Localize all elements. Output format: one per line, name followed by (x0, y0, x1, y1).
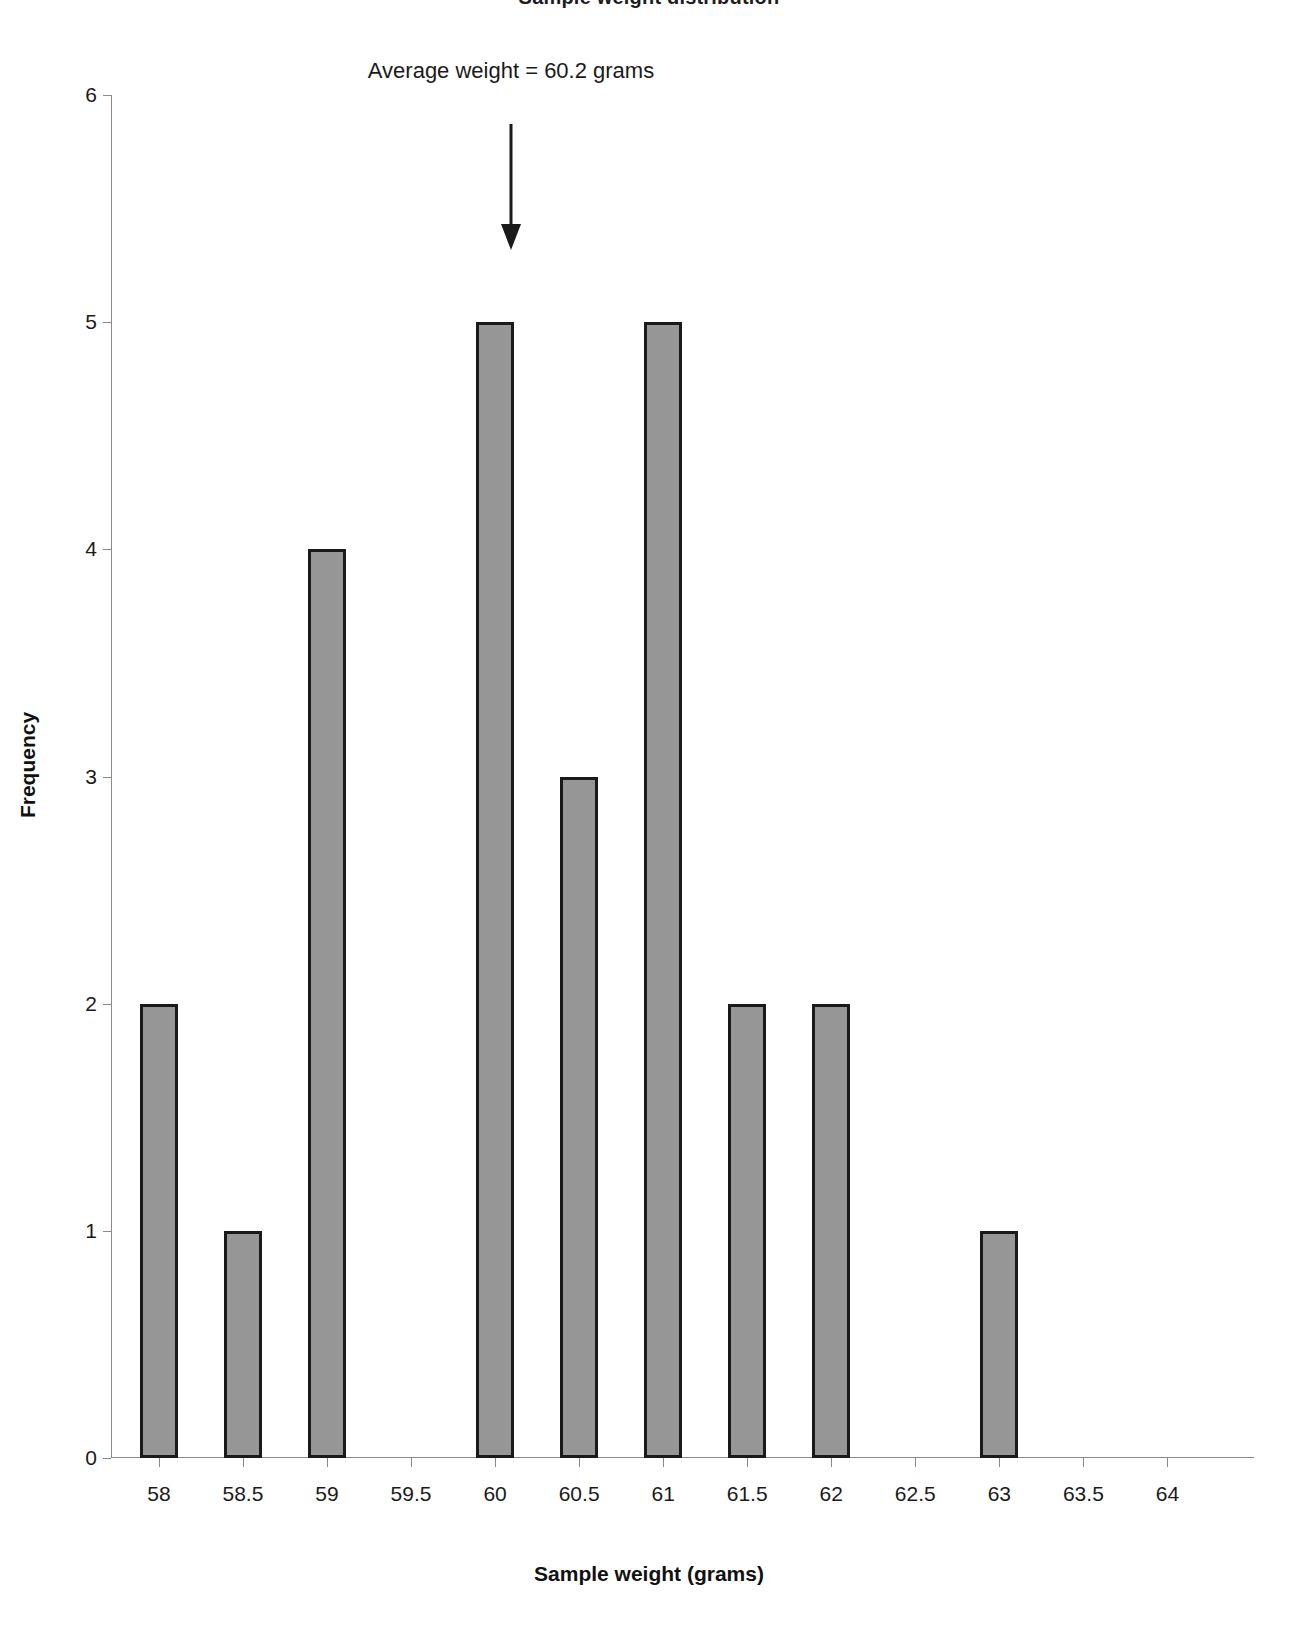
bar (644, 322, 682, 1458)
bar (224, 1231, 262, 1458)
y-axis-tick-label: 3 (85, 765, 97, 789)
bar (728, 1004, 766, 1458)
x-axis-tick (999, 1458, 1000, 1467)
bar (308, 549, 346, 1458)
y-axis-tick (103, 549, 111, 550)
x-axis-tick (915, 1458, 916, 1467)
x-axis-tick-label: 58 (147, 1482, 170, 1506)
bar (560, 777, 598, 1459)
x-axis-tick (747, 1458, 748, 1467)
x-axis-tick-label: 58.5 (223, 1482, 264, 1506)
x-axis-title: Sample weight (grams) (0, 1562, 1298, 1586)
y-axis-tick-label: 6 (85, 83, 97, 107)
x-axis-tick-label: 62.5 (895, 1482, 936, 1506)
x-axis-tick (579, 1458, 580, 1467)
y-axis-tick-label: 1 (85, 1219, 97, 1243)
y-axis-title: Frequency (16, 712, 40, 818)
x-axis-tick-label: 61 (651, 1482, 674, 1506)
y-axis-tick (103, 777, 111, 778)
x-axis-tick-label: 64 (1156, 1482, 1179, 1506)
average-weight-annotation: Average weight = 60.2 grams (368, 58, 654, 84)
y-axis-line (111, 95, 112, 1458)
x-axis-tick (159, 1458, 160, 1467)
x-axis-tick (495, 1458, 496, 1467)
y-axis-tick (103, 322, 111, 323)
x-axis-tick (1167, 1458, 1168, 1467)
bar (140, 1004, 178, 1458)
x-axis-tick-label: 62 (820, 1482, 843, 1506)
plot-area: 0123456 5858.55959.56060.56161.56262.563… (111, 95, 1254, 1458)
y-axis-tick (103, 1231, 111, 1232)
y-axis-tick-label: 5 (85, 310, 97, 334)
x-axis-tick-label: 63 (988, 1482, 1011, 1506)
bar (812, 1004, 850, 1458)
y-axis-tick-label: 2 (85, 992, 97, 1016)
x-axis-tick-label: 59.5 (391, 1482, 432, 1506)
x-axis-tick (327, 1458, 328, 1467)
x-axis-tick (831, 1458, 832, 1467)
y-axis-tick-label: 0 (85, 1446, 97, 1470)
y-axis-tick (103, 1004, 111, 1005)
x-axis-tick-label: 60.5 (559, 1482, 600, 1506)
y-axis-tick (103, 95, 111, 96)
bar (980, 1231, 1018, 1458)
y-axis-tick-label: 4 (85, 537, 97, 561)
chart-page: Sample weight distribution Average weigh… (0, 0, 1298, 1634)
x-axis-tick (1083, 1458, 1084, 1467)
x-axis-tick-label: 63.5 (1063, 1482, 1104, 1506)
x-axis-tick-label: 60 (483, 1482, 506, 1506)
chart-title: Sample weight distribution (0, 0, 1298, 9)
x-axis-tick-label: 61.5 (727, 1482, 768, 1506)
y-axis-tick (103, 1458, 111, 1459)
x-axis-tick (243, 1458, 244, 1467)
x-axis-tick (663, 1458, 664, 1467)
x-axis-tick (411, 1458, 412, 1467)
x-axis-tick-label: 59 (315, 1482, 338, 1506)
bar (476, 322, 514, 1458)
